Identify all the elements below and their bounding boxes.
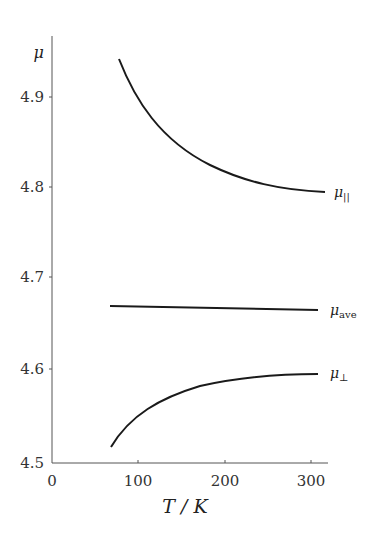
- y-tick-label: 4.7: [20, 268, 44, 286]
- y-tick-label: 4.9: [20, 88, 44, 106]
- series-mu-perp-line: [111, 374, 318, 447]
- series-label-mu-parallel: μ||: [334, 184, 350, 203]
- y-tick-label: 4.5: [20, 454, 44, 472]
- series-label-mu-perp: μ⊥: [330, 365, 349, 383]
- series-label-mu-ave: μave: [330, 302, 357, 320]
- y-tick-label: 4.8: [20, 178, 44, 196]
- x-tick-label: 0: [47, 472, 57, 490]
- y-axis-title: μ: [34, 43, 44, 62]
- series-mu-parallel-line: [119, 59, 325, 192]
- x-axis-title: T / K: [162, 495, 209, 517]
- y-tick-label: 4.6: [20, 360, 44, 378]
- x-tick-label: 300: [297, 472, 326, 490]
- x-tick-label: 100: [124, 472, 153, 490]
- chart-canvas: 4.9 4.8 4.7 4.6 4.5 0 100 200 300 μ T / …: [0, 0, 377, 533]
- series-mu-ave-line: [110, 306, 318, 310]
- x-tick-label: 200: [211, 472, 240, 490]
